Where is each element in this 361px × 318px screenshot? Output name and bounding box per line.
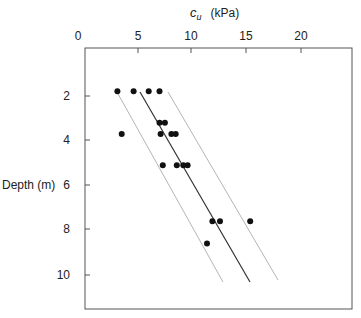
data-point	[247, 218, 253, 224]
y-tick-label: 2	[63, 89, 70, 103]
data-point	[209, 218, 215, 224]
lower-bound-line	[117, 92, 223, 282]
trend-lines	[117, 92, 278, 282]
data-point	[162, 120, 168, 126]
x-tick-labels: 0 5 10 15 20	[75, 29, 308, 43]
cu-depth-chart: cu(kPa) 0 5 10 15 20 2 4 6 8 10 Depth (m…	[0, 0, 361, 318]
data-point	[119, 131, 125, 137]
x-tick-label: 15	[239, 29, 253, 43]
x-axis-title-subscript: u	[197, 12, 202, 22]
x-tick-label: 20	[294, 29, 308, 43]
upper-bound-line	[168, 92, 278, 280]
y-tick-label: 6	[63, 178, 70, 192]
x-axis-title-units: (kPa)	[211, 6, 240, 20]
data-point	[173, 131, 179, 137]
data-point	[157, 88, 163, 94]
data-point	[114, 88, 120, 94]
mean-trend-line	[140, 92, 250, 282]
data-point	[174, 162, 180, 168]
data-points	[114, 88, 253, 246]
data-point	[157, 120, 163, 126]
y-tick-label: 10	[57, 268, 71, 282]
data-point	[204, 241, 210, 247]
data-point	[158, 131, 164, 137]
y-tick-label: 8	[63, 222, 70, 236]
y-tick-labels: 2 4 6 8 10	[57, 89, 71, 282]
data-point	[185, 162, 191, 168]
data-point	[160, 162, 166, 168]
x-ticks	[138, 48, 301, 53]
x-tick-label: 0	[75, 29, 82, 43]
x-tick-label: 10	[184, 29, 198, 43]
data-point	[131, 88, 137, 94]
y-axis-title: Depth (m)	[2, 178, 55, 192]
y-ticks	[85, 96, 90, 275]
x-axis-title: cu(kPa)	[190, 5, 239, 22]
y-tick-label: 4	[63, 133, 70, 147]
data-point	[217, 218, 223, 224]
data-point	[146, 88, 152, 94]
x-tick-label: 5	[135, 29, 142, 43]
